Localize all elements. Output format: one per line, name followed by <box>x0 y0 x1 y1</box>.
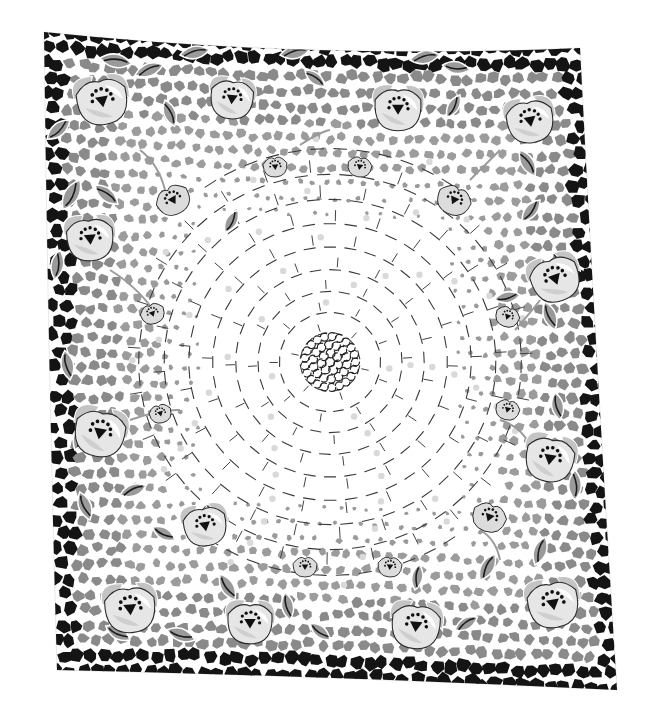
stamen-dot <box>302 560 304 562</box>
web-dot <box>360 554 366 560</box>
web-dash <box>258 361 259 371</box>
web-dot <box>269 373 275 379</box>
web-dash <box>330 270 341 271</box>
web-dot <box>451 278 457 284</box>
web-dot <box>192 420 198 426</box>
web-dot <box>163 249 169 255</box>
stamen-dot <box>387 106 390 109</box>
stamen-dot <box>254 613 257 616</box>
stamen-dot <box>257 616 260 619</box>
border-tile <box>418 38 433 53</box>
web-spoke <box>154 372 165 373</box>
web-dot <box>407 362 413 368</box>
border-tile <box>578 104 592 117</box>
web-dot <box>268 414 274 420</box>
web-spoke <box>520 353 532 354</box>
web-dot <box>225 286 231 292</box>
stamen-dot <box>405 102 408 105</box>
border-tile <box>584 56 596 71</box>
web-dot <box>247 540 253 546</box>
stamen-dot <box>249 611 252 614</box>
web-dash <box>401 353 402 363</box>
border-tile <box>616 638 630 650</box>
border-tile <box>608 622 622 634</box>
border-tile <box>601 439 615 451</box>
top-center-flower <box>372 85 424 131</box>
web-dot <box>473 384 479 390</box>
web-spoke <box>337 258 338 267</box>
web-dot <box>451 371 457 377</box>
web-spoke <box>495 352 506 353</box>
border-tile <box>254 35 267 50</box>
border-tile <box>45 423 59 433</box>
web-dash <box>329 432 339 433</box>
web-dot <box>378 473 384 479</box>
border-tile <box>306 38 319 52</box>
web-dot <box>161 466 167 472</box>
web-dot <box>386 365 392 371</box>
web-dot <box>464 216 470 222</box>
web-dot <box>206 390 212 396</box>
border-tile <box>557 681 570 694</box>
web-dot <box>374 450 380 456</box>
web-dot <box>426 159 432 165</box>
web-dot <box>256 229 262 235</box>
border-tile <box>584 85 597 99</box>
web-dot <box>378 498 384 504</box>
web-spoke <box>340 527 341 538</box>
web-dot <box>273 471 279 477</box>
web-spoke <box>248 366 256 367</box>
border-tile <box>616 605 630 619</box>
border-tile <box>616 669 630 683</box>
border-tile <box>608 514 625 526</box>
web-dot <box>416 272 422 278</box>
web-dot <box>323 299 329 305</box>
web-dot <box>432 496 438 502</box>
web-dot <box>205 237 211 243</box>
web-dash <box>424 352 425 363</box>
web-dot <box>429 364 435 370</box>
stamen-dot <box>388 100 391 103</box>
handkerchief-photo <box>0 0 659 718</box>
border-tile <box>604 427 617 438</box>
web-dot <box>372 526 378 532</box>
stamen-dot <box>305 560 307 562</box>
web-dot <box>225 354 231 360</box>
handkerchief-artwork <box>0 0 659 718</box>
border-tile <box>331 39 342 51</box>
border-tile <box>268 35 282 49</box>
web-dot <box>341 582 347 588</box>
bud-bottom-1 <box>293 557 317 577</box>
border-tile <box>204 33 217 46</box>
border-tile <box>606 394 620 406</box>
border-tile <box>600 361 616 372</box>
web-spoke <box>320 186 321 197</box>
border-tile <box>591 211 603 223</box>
stamen-dot <box>245 612 248 615</box>
border-tile <box>48 515 63 527</box>
web-dot <box>261 518 267 524</box>
web-dot <box>177 445 183 451</box>
stamen-dot <box>307 561 309 563</box>
web-dot <box>413 209 419 215</box>
web-dot <box>382 273 388 279</box>
stamen-dot <box>397 96 400 99</box>
web-dot <box>227 559 233 565</box>
bottom-left-flower-2 <box>225 600 275 644</box>
web-dot <box>259 316 265 322</box>
web-dot <box>156 337 162 343</box>
border-tile <box>596 242 610 255</box>
web-dot <box>363 215 369 221</box>
stamen-dot <box>310 566 312 568</box>
web-dash <box>336 575 349 576</box>
border-tile <box>614 577 627 590</box>
web-spoke <box>404 358 412 359</box>
web-dot <box>271 445 277 451</box>
border-tile <box>101 27 114 40</box>
border-tile <box>588 180 602 193</box>
web-dash <box>311 149 324 150</box>
web-dot <box>186 312 192 318</box>
border-tile <box>597 378 612 391</box>
web-dash <box>320 291 330 292</box>
border-tile <box>599 269 610 282</box>
